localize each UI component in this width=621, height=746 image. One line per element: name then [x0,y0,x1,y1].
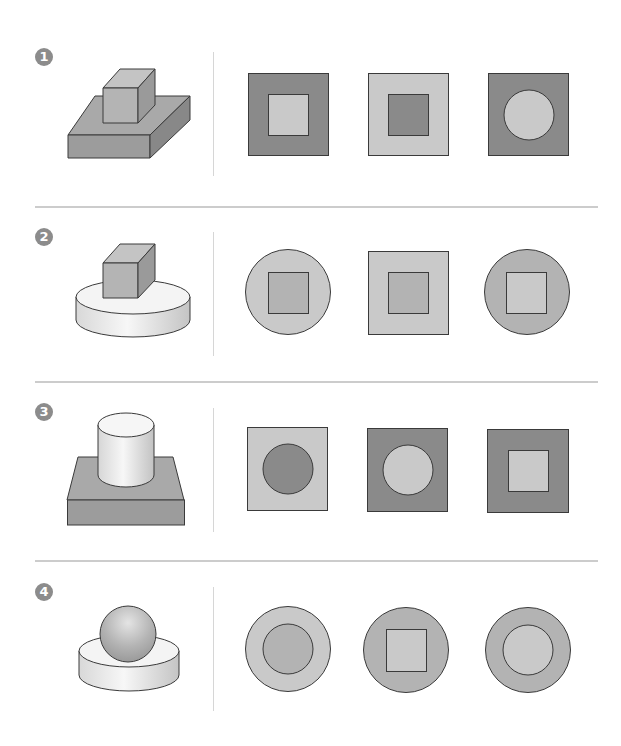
option-4-3[interactable] [485,607,575,697]
vertical-divider [213,52,214,176]
option-1-3[interactable] [488,73,578,163]
option-4-1[interactable] [245,606,335,696]
option-2-1[interactable] [245,249,335,339]
option-4-2[interactable] [363,607,453,697]
vertical-divider [213,232,214,356]
option-1-1[interactable] [248,73,338,163]
option-1-2[interactable] [368,73,458,163]
vertical-divider [213,587,214,711]
vertical-divider [213,408,214,532]
option-2-2[interactable] [368,251,458,341]
option-3-2[interactable] [367,428,457,518]
solid-sphere-on-disk [0,0,200,746]
option-3-3[interactable] [487,429,577,519]
option-3-1[interactable] [247,427,337,517]
option-2-3[interactable] [484,249,574,339]
